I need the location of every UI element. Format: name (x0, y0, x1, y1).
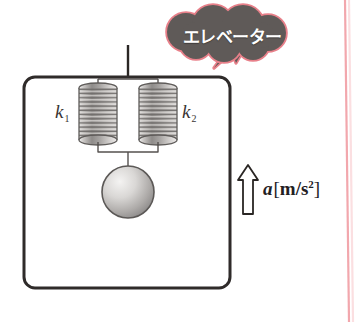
spring-label-k1: k1 (55, 101, 68, 123)
acceleration-unit: [m/s2] (274, 178, 321, 200)
bracket-close: ] (314, 178, 320, 199)
page-edge-rule (345, 0, 353, 322)
k1-symbol: k (55, 101, 63, 122)
acceleration-label: a [m/s2] (263, 178, 320, 200)
spring-label-k2: k2 (182, 101, 195, 123)
acceleration-symbol: a (263, 178, 273, 200)
k2-subscript: 2 (191, 113, 196, 124)
unit-text: m/s (280, 178, 309, 199)
callout-label: エレベーター (179, 23, 285, 48)
k2-symbol: k (182, 101, 190, 122)
hanging-mass (102, 166, 154, 218)
diagram-svg (0, 0, 359, 322)
acceleration-arrow-icon (238, 165, 258, 214)
k1-subscript: 1 (64, 113, 69, 124)
spring-k2 (139, 83, 177, 145)
figure-canvas: エレベーター k1 k2 a [m/s2] (0, 0, 359, 322)
spring-k1 (79, 83, 117, 145)
